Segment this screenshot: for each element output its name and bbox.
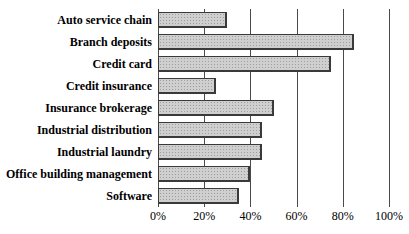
bar-track [158, 144, 389, 160]
bar-insurance-brokerage [158, 100, 274, 116]
chart-row: Office building management [0, 163, 409, 185]
bar-office-building-management [158, 166, 250, 182]
chart-row: Branch deposits [0, 31, 409, 53]
category-label: Auto service chain [0, 14, 158, 26]
bar-track [158, 12, 389, 28]
category-label: Software [0, 190, 158, 202]
bar-industrial-laundry [158, 144, 262, 160]
x-tick-label-100%: 100% [375, 210, 403, 223]
bar-software [158, 188, 239, 204]
category-label: Credit card [0, 58, 158, 70]
chart-row: Credit insurance [0, 75, 409, 97]
category-label: Industrial laundry [0, 146, 158, 158]
x-tick-label-0%: 0% [150, 210, 166, 223]
category-label: Credit insurance [0, 80, 158, 92]
x-axis: 0%20%40%60%80%100% [158, 210, 389, 228]
bar-branch-deposits [158, 34, 354, 50]
chart-row: Credit card [0, 53, 409, 75]
chart-row: Industrial distribution [0, 119, 409, 141]
x-tick-label-20%: 20% [193, 210, 215, 223]
bar-chart: Auto service chainBranch depositsCredit … [0, 0, 409, 234]
bar-credit-insurance [158, 78, 216, 94]
category-label: Branch deposits [0, 36, 158, 48]
bar-track [158, 122, 389, 138]
bar-track [158, 34, 389, 50]
bar-track [158, 166, 389, 182]
bar-auto-service-chain [158, 12, 227, 28]
bar-track [158, 78, 389, 94]
chart-row: Insurance brokerage [0, 97, 409, 119]
bar-industrial-distribution [158, 122, 262, 138]
x-tick-label-40%: 40% [239, 210, 261, 223]
chart-row: Industrial laundry [0, 141, 409, 163]
chart-rows: Auto service chainBranch depositsCredit … [0, 9, 409, 207]
x-tick-label-80%: 80% [332, 210, 354, 223]
category-label: Insurance brokerage [0, 102, 158, 114]
chart-row: Auto service chain [0, 9, 409, 31]
bar-track [158, 188, 389, 204]
bar-credit-card [158, 56, 331, 72]
chart-row: Software [0, 185, 409, 207]
category-label: Office building management [0, 168, 158, 180]
bar-track [158, 100, 389, 116]
bar-track [158, 56, 389, 72]
category-label: Industrial distribution [0, 124, 158, 136]
x-tick-label-60%: 60% [286, 210, 308, 223]
